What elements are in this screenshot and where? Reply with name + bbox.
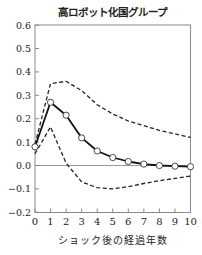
y-tick-label: 0.4 (16, 66, 31, 77)
x-tick-label: 9 (172, 216, 178, 227)
x-tick-label: 8 (156, 216, 162, 227)
y-tick-label: −0.1 (8, 183, 31, 194)
x-tick-label: 10 (184, 216, 197, 227)
data-point-marker (47, 99, 53, 105)
y-axis-ticks: 0.60.50.40.30.20.10.0−0.1−0.2 (8, 20, 39, 218)
data-point-marker (187, 164, 193, 170)
y-tick-label: 0.2 (16, 113, 31, 124)
y-tick-label: 0.3 (16, 90, 31, 101)
x-tick-label: 2 (63, 216, 69, 227)
data-point-marker (32, 144, 38, 150)
x-axis-ticks: 012345678910 (32, 209, 197, 228)
data-point-marker (141, 161, 147, 167)
data-point-marker (172, 163, 178, 169)
x-axis-label: ショック後の経過年数 (58, 234, 168, 246)
chart-series (32, 81, 194, 189)
upper-band-line (35, 81, 191, 144)
y-tick-label: 0.5 (16, 43, 31, 54)
data-point-marker (63, 112, 69, 118)
y-tick-label: −0.2 (8, 207, 31, 218)
data-point-marker (156, 162, 162, 168)
data-point-marker (79, 135, 85, 141)
data-point-marker (110, 154, 116, 160)
x-tick-label: 6 (125, 216, 131, 227)
plot-frame (35, 25, 191, 213)
x-tick-label: 5 (110, 216, 116, 227)
x-tick-label: 4 (94, 216, 100, 227)
x-tick-label: 3 (78, 216, 84, 227)
impulse-response-chart: 高ロボット化国グループ 0.60.50.40.30.20.10.0−0.1−0.… (0, 0, 202, 255)
y-tick-label: 0.6 (16, 20, 31, 31)
x-tick-label: 1 (47, 216, 53, 227)
chart-title: 高ロボット化国グループ (58, 6, 168, 18)
x-tick-label: 7 (141, 216, 147, 227)
x-tick-label: 0 (32, 216, 38, 227)
y-tick-label: 0.0 (16, 160, 31, 171)
data-point-marker (125, 158, 131, 164)
data-point-marker (94, 148, 100, 154)
y-tick-label: 0.1 (16, 137, 31, 148)
